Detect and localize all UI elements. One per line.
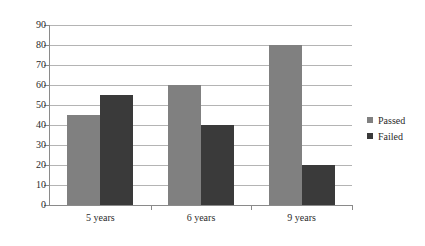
legend-item-passed: Passed (367, 112, 405, 128)
legend-swatch-icon (367, 117, 373, 123)
y-axis-label: 40 (12, 120, 46, 130)
x-axis-category-separator (251, 205, 252, 210)
gridline (50, 25, 352, 26)
gridline (50, 65, 352, 66)
x-axis-line (49, 205, 353, 206)
bar-failed-5-years (100, 95, 133, 205)
legend-label: Passed (378, 115, 405, 126)
y-axis-label: 10 (12, 180, 46, 190)
bar-passed-6-years (168, 85, 201, 205)
gridline (50, 85, 352, 86)
y-axis-label: 20 (12, 160, 46, 170)
legend-swatch-icon (367, 133, 373, 139)
x-axis-label: 9 years (251, 212, 352, 224)
y-axis-label: 70 (12, 60, 46, 70)
bar-passed-9-years (269, 45, 302, 205)
gridline (50, 105, 352, 106)
x-axis-label: 5 years (50, 212, 151, 224)
gridline (50, 45, 352, 46)
bar-failed-6-years (201, 125, 234, 205)
x-axis-category-separator (352, 205, 353, 210)
y-axis-label: 90 (12, 20, 46, 30)
bar-passed-5-years (67, 115, 100, 205)
legend-label: Failed (378, 131, 403, 142)
y-axis-label: 30 (12, 140, 46, 150)
x-axis-category-separator (151, 205, 152, 210)
x-axis-label: 6 years (151, 212, 252, 224)
y-axis-label: 60 (12, 80, 46, 90)
legend: PassedFailed (367, 112, 405, 144)
bar-chart: 0102030405060708090 5 years6 years9 year… (0, 0, 425, 246)
plot-area (50, 25, 352, 205)
y-axis-label: 80 (12, 40, 46, 50)
y-axis-label: 0 (12, 200, 46, 210)
y-axis-label: 50 (12, 100, 46, 110)
legend-item-failed: Failed (367, 128, 405, 144)
bar-failed-9-years (302, 165, 335, 205)
